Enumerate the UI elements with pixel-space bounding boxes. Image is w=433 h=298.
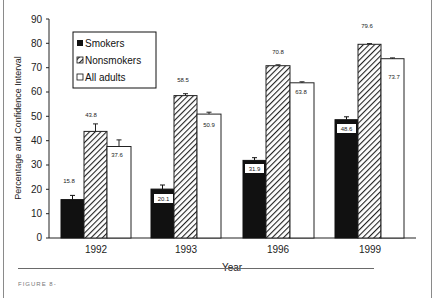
bar-nonsmokers: [266, 66, 290, 238]
data-label: 58.5: [177, 77, 189, 83]
data-label: 79.6: [361, 23, 373, 29]
y-axis-label: Percentage and Confidence Interval: [13, 56, 23, 200]
y-tick: 70: [31, 62, 43, 73]
caption-divider: [18, 268, 374, 269]
legend-label-smokers: Smokers: [85, 38, 124, 49]
legend-label-nonsmokers: Nonsmokers: [85, 55, 141, 66]
bar-smokers: [335, 120, 358, 238]
y-tick: 90: [31, 14, 43, 25]
data-label: 37.6: [111, 152, 123, 158]
bar-group-1999: 48.6 79.6 73.7: [335, 23, 404, 238]
x-tick: 1993: [175, 244, 198, 255]
y-tick: 10: [31, 208, 43, 219]
bar-all-adults: [381, 59, 404, 238]
y-tick: 60: [31, 86, 43, 97]
data-label: 63.8: [295, 89, 307, 95]
bar-nonsmokers: [84, 131, 107, 238]
data-label: 70.8: [272, 49, 284, 55]
y-tick: 50: [31, 111, 43, 122]
legend-label-all-adults: All adults: [85, 72, 126, 83]
x-tick: 1992: [85, 244, 108, 255]
bar-group-1992: 15.8 43.8 37.6: [61, 112, 131, 238]
y-tick: 30: [31, 159, 43, 170]
data-label: 50.9: [203, 122, 215, 128]
figure-caption: FIGURE 8-: [18, 281, 57, 287]
data-label: 43.8: [85, 112, 97, 118]
bar-nonsmokers: [174, 96, 197, 238]
data-label: 48.6: [341, 126, 353, 132]
data-label: 31.9: [249, 166, 261, 172]
y-axis: 0 10 20 30 40 50 60 70 80 90 Percentage …: [13, 14, 49, 243]
bar-smokers: [61, 200, 84, 238]
bar-nonsmokers: [358, 44, 381, 238]
y-tick: 80: [31, 38, 43, 49]
legend-swatch-all-adults: [77, 74, 83, 80]
bar-all-adults: [107, 147, 131, 239]
y-tick: 20: [31, 184, 43, 195]
data-label: 73.7: [388, 74, 400, 80]
legend: Smokers Nonsmokers All adults: [73, 32, 156, 88]
y-tick: 40: [31, 135, 43, 146]
bar-all-adults: [197, 114, 221, 238]
x-tick: 1996: [267, 244, 290, 255]
bar-group-1996: 31.9 70.8 63.8: [243, 49, 314, 238]
legend-swatch-nonsmokers: [77, 57, 83, 63]
y-tick: 0: [36, 232, 42, 243]
x-tick: 1999: [359, 244, 382, 255]
bar-all-adults: [290, 83, 314, 238]
data-label: 20.1: [158, 196, 170, 202]
data-label: 15.8: [63, 178, 75, 184]
legend-swatch-smokers: [77, 40, 83, 46]
bar-group-1993: 20.1 58.5 50.9: [151, 77, 221, 238]
